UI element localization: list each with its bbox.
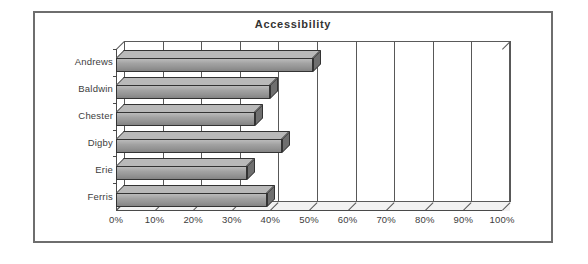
y-axis-tick — [113, 76, 117, 77]
bar-digby — [116, 139, 290, 161]
bar-front-face — [116, 193, 267, 207]
bar-chester — [116, 112, 263, 134]
x-axis-label-90: 90% — [454, 214, 474, 225]
bar-erie — [116, 166, 255, 188]
y-axis-label-erie: Erie — [95, 164, 113, 175]
y-axis-tick — [113, 130, 117, 131]
y-axis-label-chester: Chester — [78, 110, 113, 121]
bar-front-face — [116, 139, 282, 153]
x-axis-label-10: 10% — [145, 214, 165, 225]
x-axis-label-70: 70% — [376, 214, 396, 225]
x-axis-label-30: 30% — [222, 214, 242, 225]
gridline-100 — [510, 41, 511, 202]
bar-front-face — [116, 166, 247, 180]
x-axis-label-40: 40% — [261, 214, 281, 225]
y-axis-label-digby: Digby — [88, 137, 113, 148]
y-axis-labels: AndrewsBaldwinChesterDigbyErieFerris — [35, 49, 113, 210]
y-axis-tick — [113, 156, 117, 157]
bar-ferris — [116, 193, 275, 215]
chart-title: Accessibility — [35, 18, 551, 30]
x-axis-label-80: 80% — [415, 214, 435, 225]
bar-baldwin — [116, 85, 278, 107]
y-axis-label-baldwin: Baldwin — [78, 83, 113, 94]
y-axis-tick — [113, 103, 117, 104]
gridline-70 — [394, 41, 395, 202]
plot-area — [116, 49, 502, 210]
y-axis-tick — [113, 49, 117, 50]
x-axis-label-20: 20% — [183, 214, 203, 225]
bar-top-face — [116, 50, 321, 58]
y-axis-label-andrews: Andrews — [75, 56, 113, 67]
x-axis-label-100: 100% — [489, 214, 514, 225]
y-axis-label-ferris: Ferris — [88, 191, 113, 202]
x-axis-labels: 0%10%20%30%40%50%60%70%80%90%100% — [35, 214, 555, 234]
gridline-60 — [356, 41, 357, 202]
chart-frame: Accessibility AndrewsBaldwinChesterDigby… — [33, 11, 553, 243]
bar-front-face — [116, 112, 255, 126]
bar-andrews — [116, 58, 321, 80]
bar-front-face — [116, 58, 313, 72]
x-axis-label-0: 0% — [109, 214, 123, 225]
y-axis-tick — [113, 183, 117, 184]
x-axis-label-50: 50% — [299, 214, 319, 225]
x-axis-label-60: 60% — [338, 214, 358, 225]
gridline-80 — [433, 41, 434, 202]
bar-front-face — [116, 85, 270, 99]
gridline-90 — [471, 41, 472, 202]
